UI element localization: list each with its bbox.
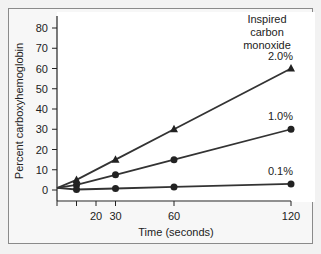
y-tick-label: 10 (36, 164, 48, 176)
y-tick-label: 0 (42, 184, 48, 196)
circle-marker (171, 156, 178, 163)
series-group (57, 64, 295, 193)
circle-marker (288, 126, 295, 133)
line-chart: 01020304050607080203060120 Time (seconds… (0, 0, 321, 254)
y-tick-label: 50 (36, 83, 48, 95)
labels-group: Time (seconds)Percent carboxyhemoglobin2… (13, 13, 293, 238)
x-tick-label: 20 (90, 210, 102, 222)
y-tick-label: 80 (36, 22, 48, 34)
x-tick-label: 30 (109, 210, 121, 222)
circle-marker (73, 186, 80, 193)
series-label: 0.1% (268, 165, 293, 177)
legend-title-line: monoxide (243, 39, 291, 51)
x-tick-label: 120 (282, 210, 300, 222)
circle-marker (112, 171, 119, 178)
y-tick-label: 60 (36, 63, 48, 75)
legend-title-line: Inspired (247, 13, 286, 25)
series-label: 2.0% (268, 50, 293, 62)
legend-title-line: carbon (250, 26, 284, 38)
y-axis-title: Percent carboxyhemoglobin (13, 43, 25, 179)
y-tick-label: 40 (36, 103, 48, 115)
x-axis-title: Time (seconds) (138, 226, 213, 238)
x-tick-label: 60 (168, 210, 180, 222)
circle-marker (171, 183, 178, 190)
circle-marker (112, 185, 119, 192)
y-tick-label: 70 (36, 42, 48, 54)
y-tick-label: 20 (36, 144, 48, 156)
y-tick-label: 30 (36, 123, 48, 135)
triangle-marker (287, 64, 295, 72)
circle-marker (288, 180, 295, 187)
series-label: 1.0% (268, 110, 293, 122)
